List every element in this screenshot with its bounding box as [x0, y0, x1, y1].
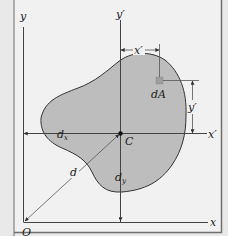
y-axis-label: y: [19, 10, 27, 23]
x-axis-label: x: [210, 216, 217, 229]
dA-element: [156, 77, 163, 84]
d-label: d: [70, 166, 77, 179]
x-prime-axis-label: x′: [208, 128, 217, 141]
x-prime-dimension-label: x′: [134, 44, 143, 57]
dA-label: dA: [151, 88, 166, 101]
y-prime-axis-label: y′: [115, 8, 125, 21]
y-prime-dimension-label: y′: [187, 101, 197, 114]
origin-label: O: [22, 226, 31, 236]
centroid-label: C: [125, 135, 134, 148]
parallel-axis-diagram: y x O y′ x′ C dA x′ y′ dx dy d: [0, 0, 228, 236]
